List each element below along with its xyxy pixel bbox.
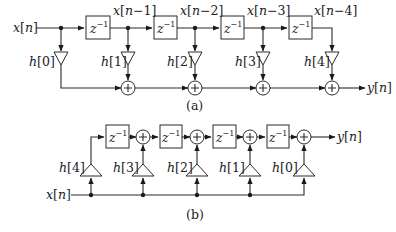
- input-label-b: x[n]: [46, 187, 71, 202]
- delay-box-a2: z−1: [154, 16, 177, 39]
- coeff-label: h[2]: [167, 160, 193, 175]
- output-label-a: y[n]: [366, 80, 392, 95]
- transposed-form-diagram: z−1 z−1 z−1 z−1: [46, 125, 362, 222]
- coeff-label: h[2]: [167, 54, 193, 69]
- adder-b4: [297, 130, 311, 144]
- junction-dot: [195, 193, 199, 197]
- delay-box-a3: z−1: [221, 16, 244, 39]
- adder-b3: [243, 130, 257, 144]
- adder-b1: [136, 130, 150, 144]
- coeff-label: h[1]: [219, 160, 245, 175]
- delay-box-a1: z−1: [86, 16, 110, 39]
- adder-a3: [256, 81, 270, 95]
- coeff-label: h[4]: [59, 160, 85, 175]
- junction-dot: [248, 193, 252, 197]
- coeff-label: h[3]: [113, 160, 139, 175]
- tap-label-1: x[n−1]: [113, 3, 156, 18]
- direct-form-diagram: x[n] z−1 z−1 z−1 z−1 x[n−1] x[n−2] x[n−3…: [13, 3, 392, 113]
- junction-dot: [89, 193, 93, 197]
- adder-b2: [190, 130, 204, 144]
- tap-label-4: x[n−4]: [314, 3, 357, 18]
- delay-box-b2: z−1: [160, 125, 182, 148]
- fir-filter-figure: x[n] z−1 z−1 z−1 z−1 x[n−1] x[n−2] x[n−3…: [0, 0, 396, 232]
- gain-h0-a: [54, 52, 68, 65]
- output-label-b: y[n]: [336, 129, 362, 144]
- delay-box-b3: z−1: [213, 125, 236, 148]
- delay-box-b4: z−1: [267, 125, 289, 148]
- input-label-a: x[n]: [13, 20, 38, 35]
- adder-a2: [188, 81, 202, 95]
- coeff-label: h[0]: [29, 54, 55, 69]
- junction-dot: [141, 193, 145, 197]
- coeff-label: h[3]: [235, 54, 261, 69]
- delay-box-b1: z−1: [106, 125, 129, 148]
- tap-label-2: x[n−2]: [180, 3, 223, 18]
- coeff-label: h[0]: [272, 160, 298, 175]
- coeff-label: h[1]: [101, 54, 127, 69]
- adder-a4: [325, 81, 339, 95]
- caption-a: (a): [186, 98, 203, 113]
- delay-box-a4: z−1: [289, 16, 312, 39]
- adder-a1: [121, 81, 135, 95]
- tap-label-3: x[n−3]: [247, 3, 290, 18]
- caption-b: (b): [186, 207, 204, 222]
- coeff-label: h[4]: [304, 54, 330, 69]
